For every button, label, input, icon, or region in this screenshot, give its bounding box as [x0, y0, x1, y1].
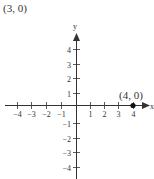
- y-tick-label: −1: [62, 120, 71, 129]
- coordinate-plane: (3, 0) x y −4−3−2−11234 4321−1−2−3−4 (4,…: [0, 0, 154, 179]
- x-ticks: −4−3−2−11234: [13, 102, 135, 119]
- x-tick-label: 2: [103, 110, 107, 119]
- x-tick-label: 1: [89, 110, 93, 119]
- x-tick-label: 3: [117, 110, 121, 119]
- x-tick-label: −4: [13, 110, 22, 119]
- x-tick-label: −2: [42, 110, 51, 119]
- point-marker: [130, 103, 135, 108]
- x-axis-arrow-icon: [142, 102, 150, 109]
- y-tick-label: −2: [62, 135, 71, 144]
- x-tick-label: −3: [27, 110, 36, 119]
- caption: (3, 0): [3, 2, 27, 15]
- y-tick-label: 3: [67, 61, 71, 70]
- y-ticks: 4321−1−2−3−4: [62, 46, 80, 173]
- y-tick-label: 2: [67, 75, 71, 84]
- y-tick-label: 4: [67, 46, 71, 55]
- y-axis-arrow-icon: [73, 33, 80, 41]
- x-tick-label: −1: [57, 110, 66, 119]
- y-tick-label: −4: [62, 164, 71, 173]
- y-tick-label: 1: [67, 90, 71, 99]
- y-tick-label: −3: [62, 149, 71, 158]
- x-tick-label: 4: [132, 110, 136, 119]
- point-label: (4, 0): [119, 89, 143, 102]
- y-axis-label: y: [73, 22, 77, 31]
- x-axis-label: x: [150, 102, 154, 111]
